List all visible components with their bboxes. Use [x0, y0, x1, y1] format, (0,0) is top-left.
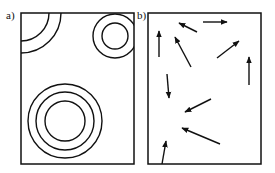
top-right-rings-circle [93, 14, 137, 58]
vector-arrow-icon [185, 99, 211, 112]
vector-arrow-icon [175, 37, 191, 67]
vector-arrow-icon [162, 141, 166, 164]
bottom-rings-circle [28, 84, 102, 158]
vector-arrow-icon [182, 128, 220, 144]
panel-b-random-arrows [159, 22, 249, 164]
top-left-quarter-arcs-circle [0, 0, 61, 53]
vector-arrow-icon [167, 74, 169, 98]
top-left-quarter-arcs-circle [0, 0, 49, 41]
diagram-canvas [0, 0, 275, 173]
vector-arrow-icon [217, 41, 239, 58]
vector-arrow-icon [179, 23, 197, 32]
top-right-rings-circle [102, 23, 128, 49]
panel-b-frame [148, 13, 261, 164]
bottom-rings-circle [45, 101, 85, 141]
